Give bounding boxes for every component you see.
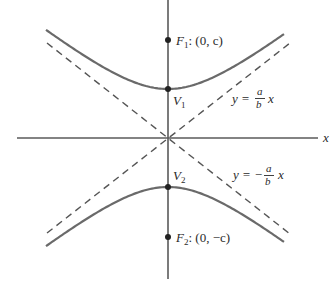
vertex-v1-point (165, 86, 171, 92)
focus-f1-point (165, 37, 171, 43)
asymptote-positive-label: y = a b x (230, 85, 274, 110)
x-axis-label: x (322, 130, 329, 145)
svg-text:a: a (266, 162, 272, 174)
svg-text:x: x (277, 167, 284, 182)
hyperbola-diagram: F1: (0, c) V1 V2 F2: (0, −c) x y = a b x… (0, 0, 334, 287)
svg-text:a: a (257, 85, 263, 97)
svg-text:b: b (256, 98, 262, 110)
svg-text:x: x (267, 91, 274, 106)
vertex-v1-label: V1 (173, 93, 185, 110)
svg-text:y =: y = (230, 91, 250, 106)
vertex-v2-point (165, 184, 171, 190)
focus-f1-label: F1: (0, c) (175, 33, 223, 50)
focus-f2-point (165, 234, 171, 240)
svg-text:b: b (265, 175, 271, 187)
asymptote-negative-label: y = − a b x (231, 162, 284, 187)
focus-f2-label: F2: (0, −c) (175, 230, 230, 247)
upper-branch-curve (46, 30, 284, 89)
lower-branch-curve (46, 187, 284, 246)
svg-text:y = −: y = − (231, 167, 263, 182)
vertex-v2-label: V2 (173, 168, 185, 185)
